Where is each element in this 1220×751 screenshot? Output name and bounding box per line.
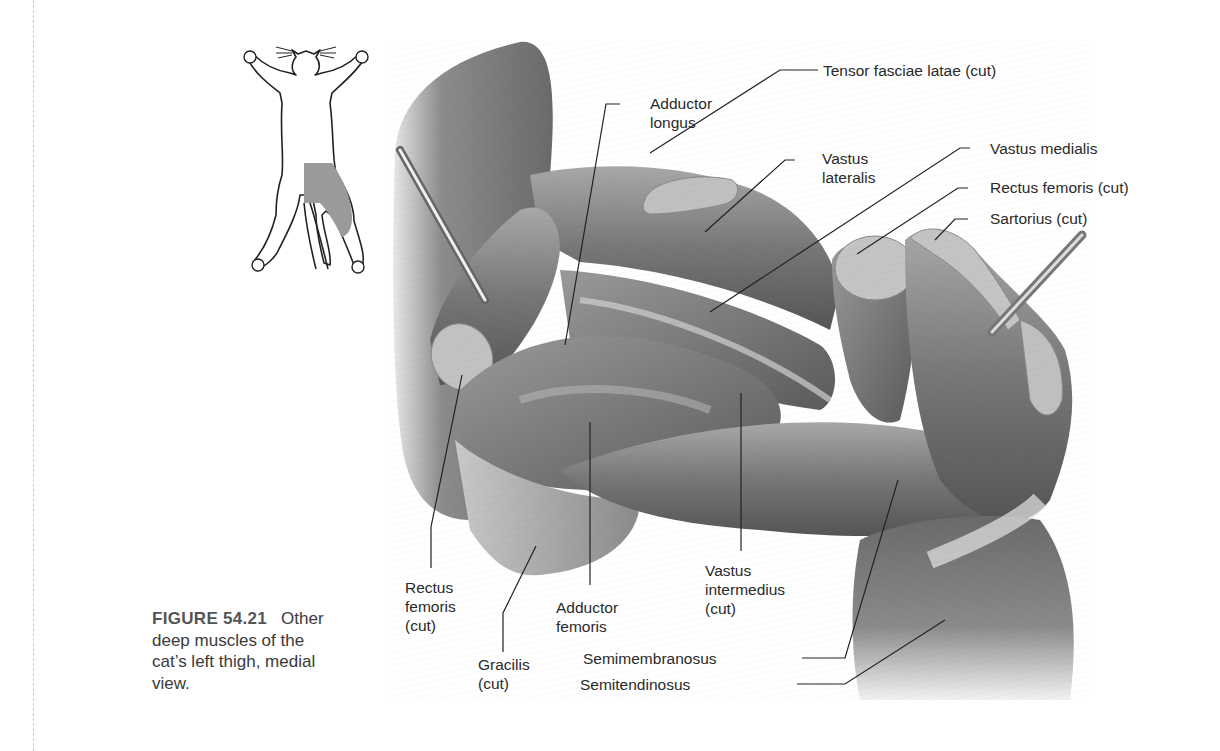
- label-rectus-femoris-left: Rectus femoris (cut): [405, 578, 456, 635]
- label-sartorius: Sartorius (cut): [990, 209, 1087, 228]
- figure-number: FIGURE 54.21: [152, 609, 267, 628]
- label-adductor-femoris: Adductor femoris: [556, 598, 618, 636]
- label-vastus-lateralis: Vastus lateralis: [822, 149, 875, 187]
- label-gracilis: Gracilis (cut): [478, 655, 530, 693]
- label-adductor-longus: Adductor longus: [650, 94, 712, 132]
- label-vastus-medialis: Vastus medialis: [990, 139, 1097, 158]
- label-semimembranosus: Semimembranosus: [583, 649, 717, 668]
- label-rectus-femoris-top: Rectus femoris (cut): [990, 178, 1129, 197]
- label-vastus-intermedius: Vastus intermedius (cut): [705, 561, 785, 618]
- label-semitendinosus: Semitendinosus: [580, 675, 690, 694]
- figure-caption: FIGURE 54.21Other deep muscles of the ca…: [152, 608, 332, 694]
- label-tensor-fasciae-latae: Tensor fasciae latae (cut): [823, 61, 996, 80]
